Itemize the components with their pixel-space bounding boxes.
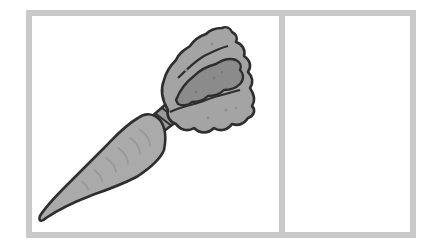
right-panel-caption (285, 16, 286, 17)
two-panel-frame: carrot illustration (26, 10, 416, 238)
left-panel-caption: carrot illustration (32, 16, 33, 17)
right-panel-empty (285, 16, 410, 232)
left-panel: carrot illustration (32, 16, 273, 232)
